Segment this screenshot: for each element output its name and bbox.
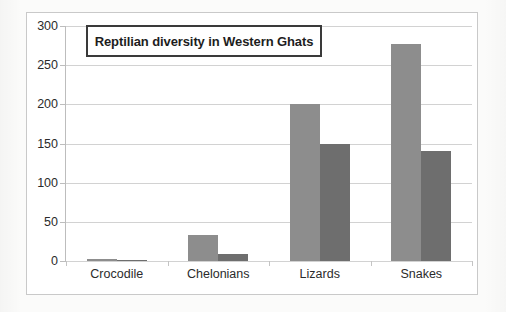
x-axis-label-snakes: Snakes: [371, 268, 473, 282]
y-axis-tick-labels: 050100150200250300: [18, 0, 58, 312]
x-axis-category-tick: [269, 261, 270, 266]
y-axis-tick-mark: [60, 144, 66, 145]
y-axis-tick-label: 150: [24, 138, 58, 151]
y-axis-tick-mark: [60, 26, 66, 27]
bar-lizards-series-a: [290, 104, 320, 261]
bar-chelonians-series-a: [188, 235, 218, 261]
bar-snakes-series-b: [421, 151, 451, 261]
chart-title: Reptilian diversity in Western Ghats: [95, 34, 314, 49]
y-axis-tick-label: 200: [24, 98, 58, 111]
x-axis-label-chelonians: Chelonians: [168, 268, 270, 282]
y-axis-tick-label: 100: [24, 177, 58, 190]
x-axis-category-tick: [371, 261, 372, 266]
chart-page: 050100150200250300 CrocodileCheloniansLi…: [0, 0, 506, 312]
bar-crocodile-series-a: [87, 259, 117, 261]
y-axis-tick-mark: [60, 104, 66, 105]
plot-area: [66, 26, 472, 261]
y-axis-tick-label: 250: [24, 59, 58, 72]
chart-title-box: Reptilian diversity in Western Ghats: [86, 25, 322, 57]
bar-lizards-series-b: [320, 144, 350, 262]
x-axis-label-crocodile: Crocodile: [66, 268, 168, 282]
bar-snakes-series-a: [391, 44, 421, 261]
bar-crocodile-series-b: [117, 260, 147, 261]
y-axis-tick-mark: [60, 183, 66, 184]
x-axis-category-tick: [168, 261, 169, 266]
y-axis-tick-mark: [60, 222, 66, 223]
bar-chelonians-series-b: [218, 254, 248, 261]
x-axis-category-tick: [66, 261, 67, 266]
x-axis-label-lizards: Lizards: [269, 268, 371, 282]
y-axis-tick-label: 0: [24, 255, 58, 268]
y-axis-tick-mark: [60, 65, 66, 66]
y-axis-tick-label: 300: [24, 20, 58, 33]
x-axis-category-tick: [472, 261, 473, 266]
y-axis-tick-label: 50: [24, 216, 58, 229]
